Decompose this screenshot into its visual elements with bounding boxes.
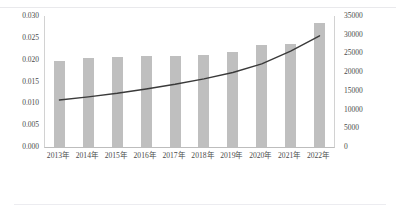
line-series-group (45, 16, 334, 147)
category-axis-label: 2013年 (47, 151, 70, 160)
combo-chart: 0.0300.0250.0200.0150.0100.0050.000 3500… (0, 8, 396, 168)
right-axis-tick: 20000 (344, 68, 363, 76)
plot-area (44, 16, 335, 148)
right-axis-tick: 10000 (344, 106, 363, 114)
category-axis-label: 2021年 (278, 151, 301, 160)
category-axis-label: 2019年 (220, 151, 243, 160)
right-axis-tick: 30000 (344, 31, 363, 39)
chart-figure: 0.0300.0250.0200.0150.0100.0050.000 3500… (0, 0, 396, 213)
left-axis-tick: 0.020 (22, 56, 39, 64)
left-axis-tick: 0.000 (22, 143, 39, 151)
right-axis-tick: 5000 (344, 124, 359, 132)
right-axis-tick: 35000 (344, 12, 363, 20)
left-axis-tick: 0.015 (22, 78, 39, 86)
category-axis-label: 2020年 (249, 151, 272, 160)
right-axis-tick: 0 (344, 143, 348, 151)
left-axis-tick: 0.005 (22, 121, 39, 129)
category-axis-label: 2016年 (134, 151, 157, 160)
category-axis-label: 2014年 (76, 151, 99, 160)
right-axis-tick: 25000 (344, 49, 363, 57)
category-axis-label: 2022年 (307, 151, 330, 160)
right-value-axis: 35000300002500020000150001000050000 (337, 16, 383, 147)
line-series-path (59, 36, 319, 100)
left-axis-tick: 0.025 (22, 34, 39, 42)
left-axis-tick: 0.030 (22, 12, 39, 20)
bottom-divider-rule (14, 204, 386, 205)
left-axis-tick: 0.010 (22, 99, 39, 107)
category-axis-label: 2018年 (191, 151, 214, 160)
right-axis-tick: 15000 (344, 87, 363, 95)
left-value-axis: 0.0300.0250.0200.0150.0100.0050.000 (2, 16, 42, 147)
category-axis: 2013年2014年2015年2016年2017年2018年2019年2020年… (44, 149, 333, 165)
cropped-caption-strip (0, 0, 396, 6)
category-axis-label: 2015年 (105, 151, 128, 160)
category-axis-label: 2017年 (162, 151, 185, 160)
